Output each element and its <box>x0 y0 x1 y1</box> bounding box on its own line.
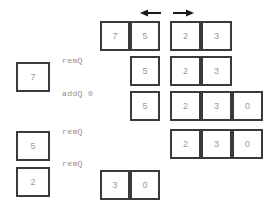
operation-label-op2: addQ 0 <box>62 90 93 98</box>
queue-cell: 2 <box>170 129 201 159</box>
left-arrow-icon <box>140 8 162 18</box>
queue-cell: 0 <box>232 91 263 121</box>
removed-item-cell: 7 <box>16 62 50 92</box>
queue-cell: 5 <box>130 21 160 51</box>
queue-cell: 2 <box>170 56 201 86</box>
right-arrow-icon <box>172 8 194 18</box>
queue-cell: 0 <box>232 129 263 159</box>
queue-cell: 3 <box>201 129 232 159</box>
queue-cell: 3 <box>201 91 232 121</box>
queue-cell: 3 <box>201 21 232 51</box>
queue-cell: 3 <box>100 170 130 200</box>
queue-cell: 2 <box>170 91 201 121</box>
queue-cell: 7 <box>100 21 130 51</box>
queue-cell: 5 <box>130 56 160 86</box>
operation-label-op1: remQ <box>62 57 83 65</box>
queue-cell: 0 <box>130 170 160 200</box>
removed-item-cell: 5 <box>16 131 50 161</box>
removed-item-cell: 2 <box>16 167 50 197</box>
queue-diagram-canvas: remQaddQ 0remQremQ7527523523523023030 <box>0 0 279 208</box>
queue-cell: 3 <box>201 56 232 86</box>
queue-cell: 2 <box>170 21 201 51</box>
queue-cell: 5 <box>130 91 160 121</box>
operation-label-op3: remQ <box>62 128 83 136</box>
operation-label-op4: remQ <box>62 160 83 168</box>
